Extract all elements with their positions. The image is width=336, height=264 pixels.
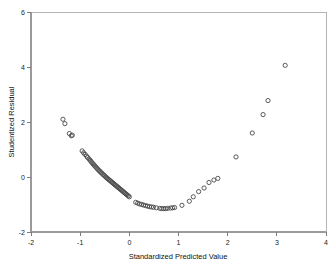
y-tick-label: -2 bbox=[19, 229, 25, 236]
x-tick-label: 0 bbox=[127, 239, 131, 246]
data-point bbox=[63, 122, 67, 126]
x-tick-label: -2 bbox=[28, 239, 34, 246]
data-point bbox=[202, 186, 206, 190]
data-point bbox=[261, 112, 265, 116]
y-axis-title: Studentized Residual bbox=[7, 86, 16, 157]
data-point bbox=[61, 117, 65, 121]
data-point bbox=[283, 63, 287, 67]
y-axis-tick-labels: -20246 bbox=[19, 9, 25, 236]
plot-canvas: -2-101234 -20246 Standardized Predicted … bbox=[0, 0, 336, 264]
data-point bbox=[234, 155, 238, 159]
x-axis-ticks bbox=[31, 232, 326, 236]
y-tick-label: 6 bbox=[21, 9, 25, 16]
data-point bbox=[207, 180, 211, 184]
data-point bbox=[216, 176, 220, 180]
y-tick-label: 4 bbox=[21, 64, 25, 71]
x-axis-tick-labels: -2-101234 bbox=[28, 239, 328, 246]
data-point bbox=[187, 199, 191, 203]
x-tick-label: -1 bbox=[77, 239, 83, 246]
data-point bbox=[266, 98, 270, 102]
x-tick-label: 1 bbox=[177, 239, 181, 246]
x-axis-title: Standardized Predicted Value bbox=[129, 252, 228, 261]
x-tick-label: 4 bbox=[324, 239, 328, 246]
x-tick-label: 2 bbox=[226, 239, 230, 246]
scatter-chart: -2-101234 -20246 Standardized Predicted … bbox=[0, 0, 336, 264]
x-tick-label: 3 bbox=[275, 239, 279, 246]
data-point-group bbox=[61, 63, 287, 210]
y-tick-label: 0 bbox=[21, 174, 25, 181]
data-point bbox=[191, 195, 195, 199]
data-point bbox=[180, 203, 184, 207]
y-axis-ticks bbox=[27, 12, 31, 232]
y-tick-label: 2 bbox=[21, 119, 25, 126]
data-point bbox=[250, 131, 254, 135]
data-point bbox=[197, 189, 201, 193]
